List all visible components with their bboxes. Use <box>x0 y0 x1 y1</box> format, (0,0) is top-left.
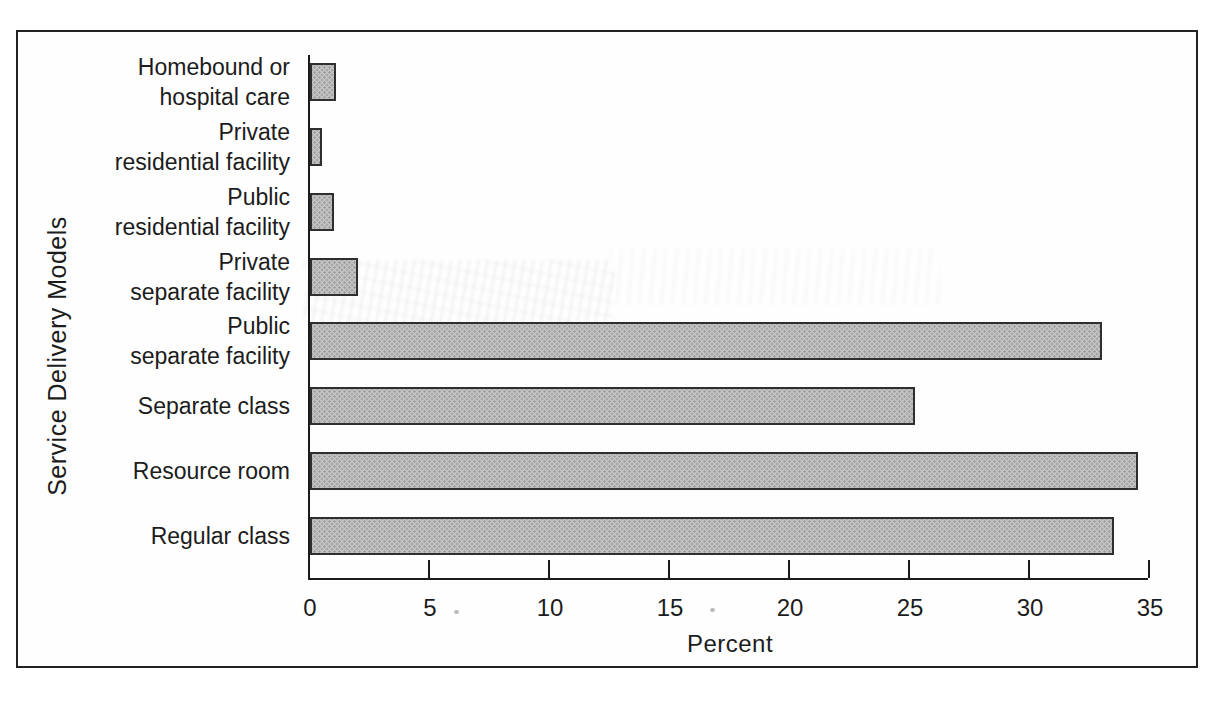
category-label-line: Private <box>18 247 290 277</box>
category-label-line: residential facility <box>18 212 290 242</box>
category-label-line: residential facility <box>18 147 290 177</box>
x-tick-20 <box>788 560 790 578</box>
x-tick-label-30: 30 <box>990 594 1070 622</box>
category-label-line: Resource room <box>18 456 290 486</box>
x-tick-10 <box>548 560 550 578</box>
category-label-line: Regular class <box>18 521 290 551</box>
category-label-regular-class: Regular class <box>18 521 290 551</box>
plot-area: 05101520253035 <box>308 55 1148 580</box>
category-label-private-residential-facility: Privateresidential facility <box>18 117 290 177</box>
x-tick-35 <box>1148 560 1150 578</box>
x-axis-title: Percent <box>308 630 1152 658</box>
bar-homebound-or-hospital-care <box>310 63 336 101</box>
x-tick-5 <box>428 560 430 578</box>
category-label-line: separate facility <box>18 277 290 307</box>
x-tick-label-20: 20 <box>750 594 830 622</box>
category-label-line: separate facility <box>18 341 290 371</box>
x-tick-25 <box>908 560 910 578</box>
category-label-line: Homebound or <box>18 52 290 82</box>
x-tick-label-15: 15 <box>630 594 710 622</box>
bar-regular-class <box>310 517 1114 555</box>
x-tick-label-0: 0 <box>270 594 350 622</box>
figure-page: Service Delivery Models Homebound orhosp… <box>0 0 1215 704</box>
bar-public-residential-facility <box>310 193 334 231</box>
x-tick-label-5: 5 <box>390 594 470 622</box>
bar-private-residential-facility <box>310 128 322 166</box>
category-label-resource-room: Resource room <box>18 456 290 486</box>
x-tick-label-25: 25 <box>870 594 950 622</box>
category-label-line: Public <box>18 311 290 341</box>
x-tick-30 <box>1028 560 1030 578</box>
x-tick-label-35: 35 <box>1110 594 1190 622</box>
category-label-separate-class: Separate class <box>18 391 290 421</box>
category-label-line: Private <box>18 117 290 147</box>
category-label-private-separate-facility: Privateseparate facility <box>18 247 290 307</box>
category-label-public-residential-facility: Publicresidential facility <box>18 182 290 242</box>
x-tick-15 <box>668 560 670 578</box>
bar-separate-class <box>310 387 915 425</box>
category-label-line: hospital care <box>18 82 290 112</box>
category-label-line: Separate class <box>18 391 290 421</box>
category-label-public-separate-facility: Publicseparate facility <box>18 311 290 371</box>
category-label-line: Public <box>18 182 290 212</box>
chart-frame: Service Delivery Models Homebound orhosp… <box>16 30 1198 668</box>
bar-public-separate-facility <box>310 322 1102 360</box>
x-tick-label-10: 10 <box>510 594 590 622</box>
bar-resource-room <box>310 452 1138 490</box>
bar-private-separate-facility <box>310 258 358 296</box>
category-label-homebound-or-hospital-care: Homebound orhospital care <box>18 52 290 112</box>
